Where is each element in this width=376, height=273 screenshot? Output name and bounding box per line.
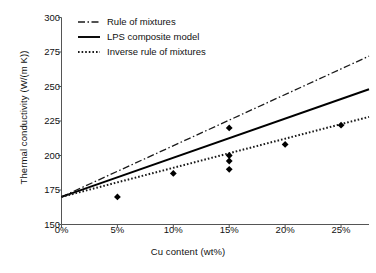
scatter-point xyxy=(282,141,289,148)
scatter-point xyxy=(226,166,233,173)
axes-group xyxy=(58,18,369,229)
series-line xyxy=(62,56,370,197)
scatter-point xyxy=(226,158,233,165)
series-line xyxy=(62,117,370,197)
scatter-point xyxy=(338,122,345,129)
series-line xyxy=(62,89,370,197)
scatter-point xyxy=(114,194,121,201)
scatter-point xyxy=(170,170,177,177)
chart-figure: Thermal conductivity (W/(m K)) 150175200… xyxy=(0,0,376,273)
series-group xyxy=(62,56,370,197)
scatter-group xyxy=(114,122,344,201)
plot-area xyxy=(0,0,376,273)
scatter-point xyxy=(226,125,233,132)
